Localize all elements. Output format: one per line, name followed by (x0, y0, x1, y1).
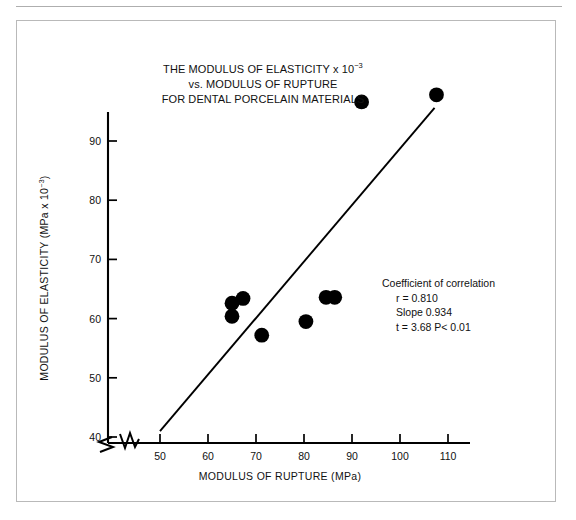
chart-title-line-3: FOR DENTAL PORCELAIN MATERIALS (118, 92, 408, 107)
y-axis-break-icon (99, 437, 113, 452)
data-point (236, 291, 251, 306)
y-tick-label: 80 (89, 194, 101, 206)
y-tick-label: 90 (89, 135, 101, 147)
chart-title: THE MODULUS OF ELASTICITY x 10−3 vs. MOD… (118, 62, 408, 107)
stats-slope-value: Slope 0.934 (382, 305, 495, 320)
y-tick-label: 50 (89, 372, 101, 384)
x-axis-title: MODULUS OF RUPTURE (MPa) (140, 470, 420, 482)
x-tick-label: 80 (298, 450, 310, 462)
y-tick-label: 70 (89, 253, 101, 265)
stats-r-value: r = 0.810 (382, 291, 495, 306)
data-point (429, 87, 444, 102)
title-exponent: −3 (354, 61, 363, 70)
x-tick-label: 50 (154, 450, 166, 462)
x-tick-label: 70 (250, 450, 262, 462)
chart-title-line-2: vs. MODULUS OF RUPTURE (118, 77, 408, 92)
y-axis-title-exponent: −3 (38, 179, 45, 188)
data-point (254, 328, 269, 343)
y-tick-label: 60 (89, 313, 101, 325)
x-axis-break-icon (120, 433, 139, 448)
data-point (225, 309, 240, 324)
stats-t-value: t = 3.68 P< 0.01 (382, 320, 495, 335)
x-tick-label: 90 (346, 450, 358, 462)
stats-heading: Coefficient of correlation (382, 276, 495, 291)
figure-page: 5060708090100110405060708090 THE MODULUS… (0, 0, 576, 520)
x-tick-label: 110 (440, 450, 457, 462)
y-axis-title: MODULUS OF ELASTICITY (MPa x 10−3) (38, 168, 50, 388)
statistics-annotation: Coefficient of correlation r = 0.810 Slo… (382, 276, 495, 334)
data-point (327, 290, 342, 305)
chart-title-line-1: THE MODULUS OF ELASTICITY x 10−3 (118, 62, 408, 77)
data-point (299, 314, 314, 329)
x-tick-label: 100 (391, 450, 409, 462)
x-tick-label: 60 (202, 450, 214, 462)
regression-line (160, 108, 435, 431)
y-axis-title-tail: ) (38, 175, 50, 179)
y-axis-title-text: MODULUS OF ELASTICITY (MPa x 10 (38, 188, 50, 381)
